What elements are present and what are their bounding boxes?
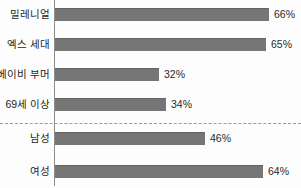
horizontal-bar-chart: 밀레니얼 66% 엑스 세대 65% 베이비 부머 32% 69세 이상 34%… [0, 0, 301, 188]
bar-row: 여성 64% [0, 165, 301, 178]
bar-category-label: 밀레니얼 [0, 7, 50, 21]
bar-value-label: 32% [164, 68, 185, 81]
bar-fill [55, 98, 166, 111]
bar-fill [55, 8, 269, 21]
bar-value-label: 46% [210, 132, 231, 145]
bar-value-label: 65% [271, 38, 292, 51]
bar-row: 베이비 부머 32% [0, 68, 301, 81]
bar-row: 남성 46% [0, 132, 301, 145]
bar-fill [55, 165, 263, 178]
group-divider-dashed-line [0, 123, 301, 124]
bar-row: 엑스 세대 65% [0, 38, 301, 51]
bar-row: 69세 이상 34% [0, 98, 301, 111]
bar-fill [55, 132, 205, 145]
bar-fill [55, 68, 159, 81]
bar-row: 밀레니얼 66% [0, 8, 301, 21]
bar-category-label: 69세 이상 [0, 97, 50, 111]
bar-value-label: 66% [274, 8, 295, 21]
bar-category-label: 남성 [0, 131, 50, 145]
category-axis-line [54, 0, 55, 186]
bar-category-label: 여성 [0, 164, 50, 178]
bar-fill [55, 38, 266, 51]
bar-category-label: 엑스 세대 [0, 37, 50, 51]
bar-value-label: 64% [268, 165, 289, 178]
bar-category-label: 베이비 부머 [0, 67, 50, 81]
bar-value-label: 34% [171, 98, 192, 111]
